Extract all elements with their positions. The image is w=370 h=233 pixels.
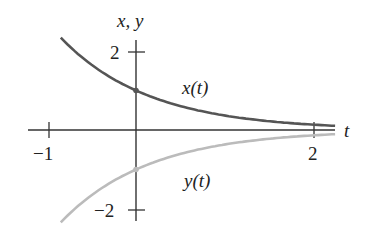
axis-label-xy: x, y (116, 10, 144, 31)
tick-label-y-neg2: −2 (94, 200, 114, 221)
series-label-x: x(t) (181, 77, 208, 99)
tick-label-y-2: 2 (110, 42, 120, 63)
point-x0 (133, 88, 139, 94)
series-label-y: y(t) (182, 170, 210, 192)
chart: x, y t 2 −2 −1 2 x(t) y(t) (0, 0, 370, 233)
tick-label-t-2: 2 (308, 143, 318, 164)
tick-label-t-neg1: −1 (33, 143, 53, 164)
axis-label-t: t (344, 120, 350, 141)
point-y0 (133, 167, 139, 173)
